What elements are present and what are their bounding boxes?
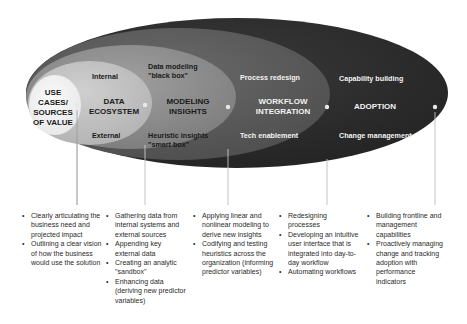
- use-cases-line-3: SOURCES: [33, 108, 73, 118]
- data-ecosystem-line-1: DATA: [89, 97, 139, 107]
- bullet-item: Automating workflows: [279, 267, 359, 276]
- label-data-modeling: Data modeling "black box": [148, 62, 198, 80]
- label-process-redesign: Process redesign: [240, 73, 300, 82]
- dot-adoption: [433, 105, 437, 109]
- heuristic-line-1: Heuristic insights: [148, 131, 208, 140]
- dot-modeling: [226, 105, 230, 109]
- bullet-item: Appending key external data: [106, 239, 188, 258]
- use-cases-line-1: USE: [33, 88, 73, 98]
- modeling-insights-line-2: INSIGHTS: [166, 107, 209, 117]
- label-tech-enablement: Tech enablement: [240, 131, 298, 140]
- bullet-item: Codifying and testing heuristics across …: [193, 239, 277, 277]
- bullet-item: Gathering data from internal systems and…: [106, 211, 188, 239]
- label-heuristic-insights: Heuristic insights "smart box": [148, 131, 208, 149]
- workflow-line-1: WORKFLOW: [256, 97, 311, 107]
- heuristic-line-2: "smart box": [148, 140, 208, 149]
- dot-use-cases: [75, 103, 79, 107]
- bullet-item: Enhancing data (deriving new predictor v…: [106, 277, 188, 305]
- use-cases-line-2: CASES/: [33, 98, 73, 108]
- label-data-ecosystem: DATA ECOSYSTEM: [89, 97, 139, 117]
- data-modeling-line-1: Data modeling: [148, 62, 198, 71]
- bullet-item: Outlining a clear vision of how the busi…: [22, 239, 102, 267]
- dot-data-ecosystem: [143, 103, 147, 107]
- data-modeling-line-2: "black box": [148, 71, 198, 80]
- workflow-line-2: INTEGRATION: [256, 107, 311, 117]
- bullets-data-ecosystem: Gathering data from internal systems and…: [106, 211, 188, 305]
- bullet-item: Building frontline and management capabi…: [367, 211, 447, 239]
- bullets-modeling-insights: Applying linear and nonlinear modeling t…: [193, 211, 277, 277]
- bullet-item: Creating an analytic "sandbox": [106, 258, 188, 277]
- label-workflow-integration: WORKFLOW INTEGRATION: [256, 97, 311, 117]
- label-adoption: ADOPTION: [354, 102, 396, 112]
- label-capability-building: Capability building: [339, 74, 403, 83]
- dot-workflow: [325, 105, 329, 109]
- bullets-use-cases: Clearly articulating the business need a…: [22, 211, 102, 267]
- bullets-workflow-integration: Redesigning processes Developing an intu…: [279, 211, 359, 277]
- label-modeling-insights: MODELING INSIGHTS: [166, 97, 209, 117]
- label-change-management: Change management: [339, 131, 412, 140]
- label-external: External: [92, 131, 120, 140]
- label-internal: Internal: [92, 72, 118, 81]
- label-use-cases: USE CASES/ SOURCES OF VALUE: [33, 88, 73, 128]
- bullets-adoption: Building frontline and management capabi…: [367, 211, 447, 286]
- bullet-item: Applying linear and nonlinear modeling t…: [193, 211, 277, 239]
- modeling-insights-line-1: MODELING: [166, 97, 209, 107]
- bullet-item: Developing an intuitive user interface t…: [279, 230, 359, 268]
- bullet-item: Redesigning processes: [279, 211, 359, 230]
- data-ecosystem-line-2: ECOSYSTEM: [89, 107, 139, 117]
- bullet-item: Proactively managing change and tracking…: [367, 239, 447, 286]
- bullet-item: Clearly articulating the business need a…: [22, 211, 102, 239]
- use-cases-line-4: OF VALUE: [33, 118, 73, 128]
